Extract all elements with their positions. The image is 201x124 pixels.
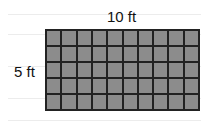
grid-cell — [108, 79, 121, 93]
area-grid — [45, 29, 200, 111]
ruled-line — [8, 14, 201, 15]
grid-cell — [62, 95, 75, 109]
grid-cell — [78, 63, 91, 77]
grid-cell — [62, 31, 75, 45]
ruled-line — [8, 120, 201, 121]
grid-cell — [169, 31, 182, 45]
width-label: 10 ft — [107, 8, 136, 25]
grid-cell — [93, 63, 106, 77]
grid-cell — [93, 79, 106, 93]
grid-cell — [154, 31, 167, 45]
grid-cell — [108, 31, 121, 45]
grid-cell — [108, 47, 121, 61]
grid-cell — [169, 63, 182, 77]
grid-cell — [154, 63, 167, 77]
grid-cell — [47, 47, 60, 61]
grid-cell — [154, 95, 167, 109]
height-label: 5 ft — [14, 63, 35, 80]
grid-cell — [185, 47, 198, 61]
grid-cell — [139, 95, 152, 109]
grid-cell — [185, 31, 198, 45]
grid-cell — [93, 95, 106, 109]
grid-cell — [47, 31, 60, 45]
grid-cell — [124, 95, 137, 109]
grid-cell — [47, 63, 60, 77]
grid-cell — [185, 79, 198, 93]
grid-cell — [62, 63, 75, 77]
grid-cell — [124, 31, 137, 45]
grid-cell — [78, 47, 91, 61]
grid-cell — [78, 31, 91, 45]
grid-cell — [139, 31, 152, 45]
grid-cell — [169, 95, 182, 109]
grid-cell — [169, 47, 182, 61]
grid-cell — [124, 47, 137, 61]
grid-cell — [108, 63, 121, 77]
grid-cell — [47, 79, 60, 93]
grid-cell — [62, 79, 75, 93]
grid-cell — [124, 63, 137, 77]
grid-cell — [139, 79, 152, 93]
grid-cell — [154, 47, 167, 61]
grid-cell — [154, 79, 167, 93]
grid-cell — [185, 63, 198, 77]
grid-cell — [124, 79, 137, 93]
grid-cell — [93, 47, 106, 61]
grid-cell — [169, 79, 182, 93]
grid-cell — [93, 31, 106, 45]
grid-cell — [108, 95, 121, 109]
grid-cell — [185, 95, 198, 109]
grid-cell — [62, 47, 75, 61]
grid-cell — [78, 95, 91, 109]
grid-cell — [47, 95, 60, 109]
grid-cell — [78, 79, 91, 93]
grid-cell — [139, 47, 152, 61]
grid-cell — [139, 63, 152, 77]
